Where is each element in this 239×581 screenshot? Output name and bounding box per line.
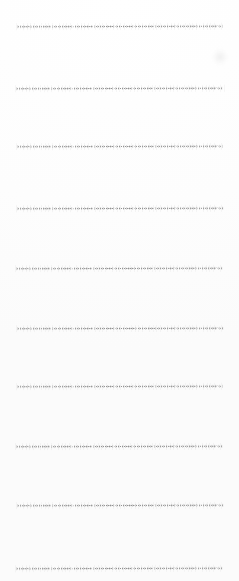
paper-background-texture [0, 0, 239, 581]
ruled-line-stipple [16, 205, 225, 212]
scanner-smudge-icon [212, 48, 228, 66]
ruled-line [18, 145, 222, 148]
ruled-line-stipple [16, 23, 224, 30]
ruled-line-stipple [15, 443, 224, 450]
ruled-line [17, 267, 222, 270]
ruled-line-halo [17, 385, 223, 388]
ruled-line [17, 567, 222, 570]
ruled-line-halo [16, 267, 223, 270]
ruled-line-core [18, 505, 223, 506]
ruled-line-halo [16, 567, 223, 570]
ruled-line-core [18, 328, 223, 329]
ruled-line-stipple [16, 325, 225, 332]
ruled-line-core [18, 26, 222, 27]
ruled-line-stipple [16, 143, 224, 150]
ruled-line [18, 25, 222, 28]
ruled-line [18, 327, 223, 330]
ruled-line-stipple [16, 502, 225, 509]
ruled-line-core [18, 146, 222, 147]
ruled-paper-sheet [0, 0, 239, 581]
ruled-line-halo [17, 207, 224, 210]
ruled-line-halo [17, 504, 224, 507]
ruled-line-core [18, 208, 223, 209]
ruled-line-halo [16, 445, 223, 448]
ruled-line-halo [17, 327, 224, 330]
ruled-line-halo [17, 25, 223, 28]
ruled-line-stipple [16, 383, 224, 390]
ruled-line-core [18, 386, 222, 387]
ruled-line-halo [17, 145, 223, 148]
ruled-line-core [17, 446, 222, 447]
ruled-line [17, 445, 222, 448]
ruled-line-halo [16, 87, 224, 90]
ruled-line-core [17, 88, 223, 89]
ruled-line [17, 87, 223, 90]
ruled-line-stipple [15, 85, 225, 92]
ruled-line [18, 504, 223, 507]
ruled-line-stipple [15, 565, 224, 572]
ruled-line [18, 385, 222, 388]
ruled-line-core [17, 268, 222, 269]
ruled-line-core [17, 568, 222, 569]
ruled-line [18, 207, 223, 210]
ruled-line-stipple [15, 265, 224, 272]
